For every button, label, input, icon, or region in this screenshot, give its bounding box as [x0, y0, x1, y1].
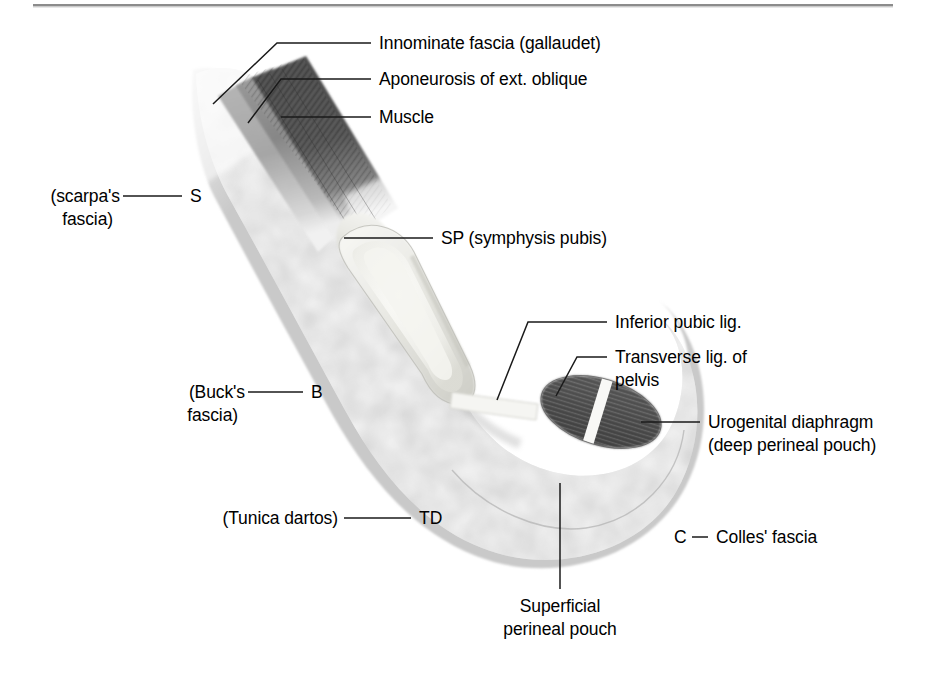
label-bucks-fascia-line2: fascia) [125, 404, 238, 427]
top-divider-rule [33, 4, 893, 7]
label-symphysis-pubis: SP (symphysis pubis) [441, 227, 607, 250]
label-scarpas-fascia-line2: fascia) [0, 208, 113, 231]
label-superficial-perineal-pouch-line2: perineal pouch [468, 618, 652, 641]
label-innominate-fascia: Innominate fascia (gallaudet) [379, 32, 601, 55]
marker-scarpa: S [190, 185, 202, 208]
marker-tunica-dartos: TD [419, 507, 442, 530]
label-superficial-perineal-pouch-line1: Superficial [478, 595, 642, 618]
anatomical-figure: Innominate fascia (gallaudet) Aponeurosi… [0, 0, 925, 673]
label-bucks-fascia-line1: (Buck's [125, 381, 245, 404]
label-tunica-dartos: (Tunica dartos) [180, 507, 338, 530]
label-urogenital-diaphragm-line1: Urogenital diaphragm [708, 411, 873, 434]
marker-buck: B [311, 381, 323, 404]
label-transverse-lig-line2: pelvis [615, 369, 659, 392]
label-urogenital-diaphragm-line2: (deep perineal pouch) [708, 434, 876, 457]
label-aponeurosis: Aponeurosis of ext. oblique [379, 68, 587, 91]
anatomy-illustration [0, 0, 925, 673]
label-transverse-lig-line1: Transverse lig. of [615, 346, 747, 369]
label-colles-fascia: Colles' fascia [716, 526, 817, 549]
label-scarpas-fascia-line1: (scarpa's [0, 185, 120, 208]
marker-colles: C [674, 526, 687, 549]
label-inferior-pubic-lig: Inferior pubic lig. [615, 311, 742, 334]
label-muscle: Muscle [379, 106, 434, 129]
